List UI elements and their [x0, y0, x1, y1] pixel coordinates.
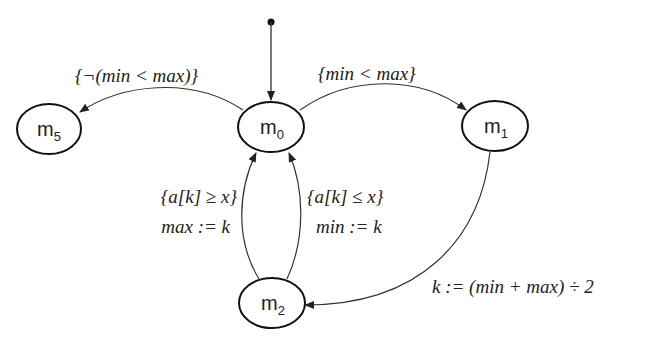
label-m2-m0-right-action: min := k	[316, 216, 382, 237]
state-m0: m0	[238, 102, 304, 152]
label-m0-m5: {¬(min < max)}	[75, 65, 199, 87]
edge-m2-m0-right	[287, 153, 301, 279]
edge-m0-m5	[80, 88, 243, 112]
edge-m0-m1	[300, 84, 466, 110]
edge-m2-m0-left	[242, 153, 259, 279]
label-m0-m1: {min < max}	[318, 63, 416, 84]
state-m5: m5	[17, 104, 81, 154]
initial-transition	[268, 19, 275, 101]
state-diagram: m0 m1 m2 m5 {¬(min < max)} {min < max} k…	[0, 0, 664, 350]
state-m2: m2	[239, 278, 305, 328]
label-m1-m2: k := (min + max) ÷ 2	[432, 276, 594, 298]
label-m2-m0-right-guard: {a[k] ≤ x}	[307, 186, 384, 207]
state-m1: m1	[462, 101, 528, 151]
label-m2-m0-left-guard: {a[k] ≥ x}	[161, 186, 238, 207]
label-m2-m0-left-action: max := k	[161, 216, 230, 237]
